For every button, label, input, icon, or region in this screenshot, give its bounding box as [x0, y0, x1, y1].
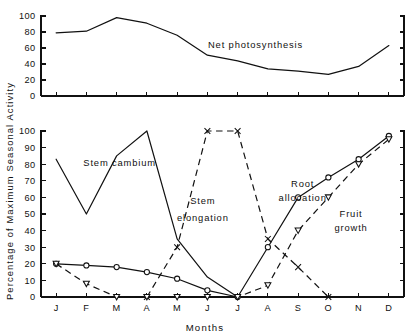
marker-root-allocation [175, 276, 180, 281]
marker-stem-elongation [265, 236, 271, 242]
bottom-x-tick-label: S [295, 303, 302, 313]
top-y-tick-label: 40 [24, 59, 35, 69]
bottom-x-tick-label: N [355, 303, 362, 313]
top-y-tick-labels: 020406080100 [19, 11, 36, 101]
top-y-tick-label: 0 [30, 91, 36, 101]
series-label-fruit: Fruit [340, 208, 363, 219]
series-label-stem: Stem [190, 195, 215, 206]
series-label-allocation: allocation [279, 192, 327, 203]
series-line-stem-elongation [147, 131, 329, 297]
bottom-x-tick-label: A [144, 303, 151, 313]
marker-root-allocation [265, 245, 270, 250]
series-label-growth: growth [334, 222, 367, 233]
seasonal-activity-figure: Percentage of Maximum Seasonal Activity … [0, 0, 417, 335]
bottom-x-tick-label: F [83, 303, 89, 313]
net-photosynthesis-panel: 020406080100 Net photosynthesis [19, 11, 404, 101]
bottom-y-tick-labels: 0102030405060708090100 [19, 126, 36, 302]
marker-fruit-growth [265, 283, 271, 288]
marker-root-allocation [114, 265, 119, 270]
bottom-y-tick-label: 100 [19, 126, 36, 136]
marker-root-allocation [84, 263, 89, 268]
net-photosynthesis-label: Net photosynthesis [208, 39, 303, 50]
top-y-tick-label: 20 [24, 75, 35, 85]
bottom-y-tick-label: 60 [24, 193, 35, 203]
marker-root-allocation [144, 270, 149, 275]
bottom-y-tick-label: 50 [24, 209, 35, 219]
top-y-tick-label: 60 [24, 43, 35, 53]
marker-root-allocation [205, 288, 210, 293]
bottom-y-tick-label: 90 [24, 143, 35, 153]
bottom-x-tick-label: J [205, 303, 210, 313]
bottom-y-tick-label: 40 [24, 226, 35, 236]
bottom-y-tick-label: 30 [24, 243, 35, 253]
marker-fruit-growth [295, 228, 301, 233]
marker-fruit-growth [83, 281, 89, 286]
chart-canvas: Percentage of Maximum Seasonal Activity … [0, 0, 417, 335]
allocation-panel: 0102030405060708090100 JFMAMJJASOND Stem… [19, 126, 404, 333]
bottom-series-labels: Stem cambiumStemelongationRootallocation… [83, 157, 367, 233]
marker-fruit-growth [174, 294, 180, 299]
bottom-x-tick-label: O [325, 303, 333, 313]
bottom-x-tick-label: M [113, 303, 121, 313]
bottom-x-tick-label: J [235, 303, 240, 313]
series-label-elongation: elongation [177, 212, 229, 223]
bottom-y-tick-label: 20 [24, 259, 35, 269]
series-label-stem-cambium: Stem cambium [83, 157, 156, 168]
bottom-y-tick-label: 10 [24, 276, 35, 286]
marker-fruit-growth [204, 294, 210, 299]
bottom-y-tick-label: 80 [24, 160, 35, 170]
bottom-x-tick-label: M [173, 303, 181, 313]
marker-fruit-growth [356, 162, 362, 167]
top-y-tick-label: 80 [24, 27, 35, 37]
y-axis-title: Percentage of Maximum Seasonal Activity [4, 82, 15, 300]
series-label-root: Root [291, 178, 314, 189]
bottom-x-tick-label: D [385, 303, 392, 313]
bottom-x-tick-label: A [265, 303, 272, 313]
bottom-x-tick-label: J [54, 303, 59, 313]
bottom-x-tick-labels: JFMAMJJASOND [54, 303, 393, 313]
marker-root-allocation [356, 157, 361, 162]
marker-root-allocation [326, 175, 331, 180]
bottom-y-tick-label: 70 [24, 176, 35, 186]
marker-fruit-growth [114, 294, 120, 299]
top-y-tick-label: 100 [19, 11, 36, 21]
marker-stem-elongation [295, 264, 301, 270]
x-axis-title: Months [186, 322, 225, 333]
bottom-y-tick-label: 0 [30, 292, 36, 302]
